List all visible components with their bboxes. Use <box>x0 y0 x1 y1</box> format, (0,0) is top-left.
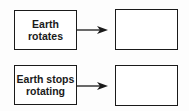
arrow-icon <box>77 24 111 36</box>
cause-label: Earth rotates <box>28 18 63 42</box>
effect-box-2[interactable] <box>115 65 178 106</box>
effect-box-1[interactable] <box>115 9 178 50</box>
cause-label: Earth stops rotating <box>17 73 75 97</box>
arrow-icon <box>77 80 111 92</box>
cause-box-earth-stops-rotating: Earth stops rotating <box>14 65 77 105</box>
cause-box-earth-rotates: Earth rotates <box>14 10 77 50</box>
